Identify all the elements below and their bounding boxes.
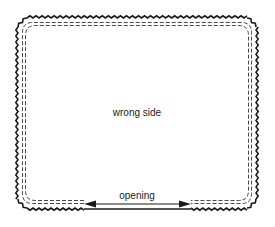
opening-arrow-icon: [84, 201, 191, 208]
wrong-side-label: wrong side: [112, 107, 162, 118]
opening-label: opening: [119, 190, 155, 201]
sewing-diagram: opening wrong side: [0, 0, 275, 227]
